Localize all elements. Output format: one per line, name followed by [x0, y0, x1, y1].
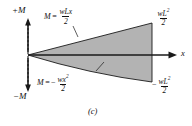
positive-moment-label: +M — [12, 6, 26, 15]
upper-equation-denominator: 2 — [62, 16, 69, 25]
figure-caption: (c) — [88, 107, 97, 116]
bottom-right-numerator-base: wL — [159, 77, 168, 86]
lower-equation-lhs: M — [37, 79, 44, 87]
lower-equation-fraction: wx2 2 — [56, 74, 70, 93]
x-axis-arrow — [169, 52, 178, 59]
top-right-denominator: 2 — [160, 18, 167, 27]
upper-equation-leader — [73, 26, 78, 37]
top-right-numerator: wL2 — [156, 8, 171, 18]
upper-equation-fraction: wLx 2 — [58, 8, 74, 25]
top-right-numerator-base: wL — [158, 9, 167, 18]
bottom-right-denominator: 2 — [161, 86, 168, 95]
lower-equation-denominator: 2 — [60, 84, 67, 93]
bottom-right-numerator-exponent: 2 — [168, 75, 171, 81]
axis-arrow-up — [25, 18, 31, 26]
lower-equation-sign: − — [51, 79, 56, 87]
top-right-value: wL2 2 — [156, 8, 171, 27]
lower-equation-equals: = — [45, 79, 50, 87]
top-right-numerator-exponent: 2 — [167, 7, 170, 13]
bottom-right-numerator: wL2 — [157, 76, 172, 86]
bottom-right-value: − wL2 2 — [152, 76, 172, 95]
upper-equation-equals: = — [52, 13, 57, 21]
lower-equation-numerator: wx2 — [56, 74, 70, 84]
upper-equation-numerator: wLx — [58, 8, 74, 16]
lower-equation-numerator-base: wx — [58, 75, 66, 84]
bottom-right-fraction: wL2 2 — [157, 76, 172, 95]
lower-curve-equation: M = − wx2 2 — [37, 74, 70, 93]
lower-equation-numerator-exponent: 2 — [66, 73, 69, 79]
upper-curve-equation: M = wLx 2 — [44, 8, 74, 25]
bottom-right-sign: − — [152, 81, 157, 89]
x-axis-label: x — [181, 49, 185, 58]
bending-moment-figure: +M −M x M = wLx 2 M = − wx2 2 wL2 2 — [0, 0, 192, 126]
top-right-fraction: wL2 2 — [156, 8, 171, 27]
upper-equation-lhs: M — [44, 13, 51, 21]
negative-moment-label: −M — [13, 92, 27, 101]
